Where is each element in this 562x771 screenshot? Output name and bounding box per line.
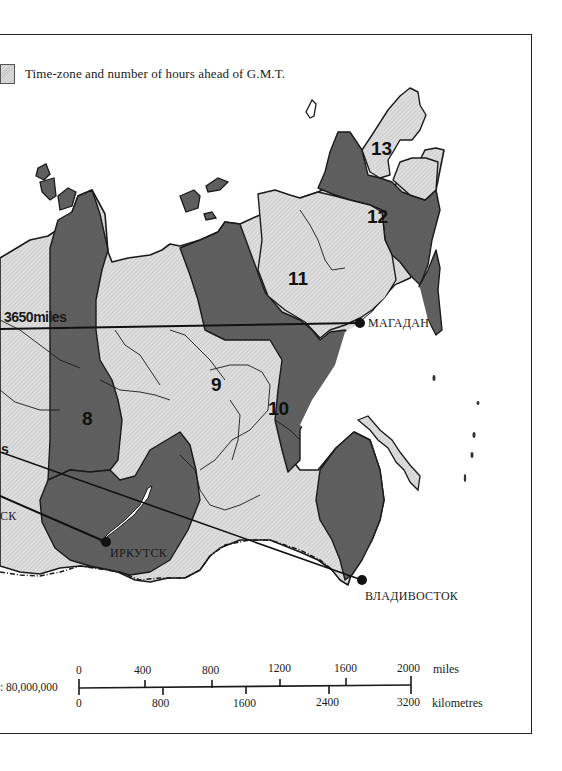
city-vladivostok: ВЛАДИВОСТОК bbox=[365, 589, 458, 604]
scale-ratio: : 80,000,000 bbox=[0, 681, 58, 693]
scale-km-tick-1600: 1600 bbox=[233, 697, 256, 709]
map-canvas bbox=[0, 0, 562, 771]
scale-bar bbox=[79, 676, 411, 695]
legend-text: Time-zone and number of hours ahead of G… bbox=[25, 66, 285, 82]
scale-km-tick-0: 0 bbox=[76, 697, 82, 709]
city-magadan: МАГАДАН bbox=[368, 316, 429, 331]
zone-label-8: 8 bbox=[82, 408, 93, 430]
scale-mile-tick-800: 800 bbox=[202, 664, 219, 676]
scale-mile-tick-2000: 2000 bbox=[397, 662, 420, 674]
kuril-islands bbox=[433, 375, 480, 482]
scale-km-tick-3200: 3200 bbox=[397, 696, 420, 708]
scale-mile-tick-1600: 1600 bbox=[334, 662, 357, 674]
scale-km-unit: kilometres bbox=[432, 696, 483, 711]
scale-miles-unit: miles bbox=[433, 662, 459, 677]
scale-mile-tick-1200: 1200 bbox=[268, 662, 291, 674]
legend-swatch bbox=[0, 64, 15, 84]
zone-label-10: 10 bbox=[268, 398, 289, 420]
zone-label-13: 13 bbox=[371, 138, 392, 160]
scale-mile-tick-0: 0 bbox=[76, 664, 82, 676]
city-irkutsk: ИРКУТСК bbox=[110, 546, 167, 561]
scale-mile-tick-400: 400 bbox=[134, 664, 151, 676]
zone-label-12: 12 bbox=[367, 206, 388, 228]
zone-label-11: 11 bbox=[288, 268, 308, 290]
scale-km-tick-800: 800 bbox=[152, 697, 169, 709]
distance-label-partial: s bbox=[1, 441, 8, 457]
city-partial-left: СК bbox=[0, 509, 17, 524]
distance-label-magadan: 3650miles bbox=[4, 309, 66, 325]
scale-km-tick-2400: 2400 bbox=[316, 696, 339, 708]
zone-label-9: 9 bbox=[211, 374, 222, 396]
legend: Time-zone and number of hours ahead of G… bbox=[0, 64, 285, 84]
